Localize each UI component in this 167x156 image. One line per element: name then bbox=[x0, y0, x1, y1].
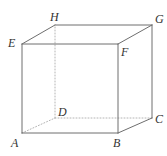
vertex-label-d: D bbox=[58, 106, 67, 118]
vertex-label-c: C bbox=[155, 113, 163, 125]
hidden-edges-group bbox=[22, 25, 152, 133]
vertex-label-b: B bbox=[113, 137, 120, 149]
cube-edge-FG bbox=[118, 25, 152, 44]
vertex-label-e: E bbox=[8, 37, 15, 49]
vertex-label-g: G bbox=[155, 13, 164, 25]
cube-edge-BC bbox=[118, 118, 152, 133]
visible-edges-group bbox=[22, 25, 152, 133]
vertex-label-a: A bbox=[11, 137, 18, 149]
cube-figure: ABCDEFGH bbox=[0, 0, 167, 156]
cube-edge-AD bbox=[22, 118, 55, 133]
vertex-label-h: H bbox=[50, 11, 59, 23]
cube-edge-EH bbox=[22, 25, 55, 44]
vertex-label-f: F bbox=[121, 46, 128, 58]
cube-drawing bbox=[0, 0, 167, 156]
